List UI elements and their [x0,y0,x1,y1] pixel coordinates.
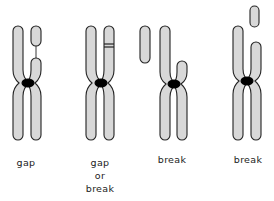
chromosome-break-1 [140,26,187,140]
label-break-1: break [152,153,192,166]
chromatid-right-short [245,42,261,140]
chromosome-break-2 [233,6,261,140]
centromere [95,79,107,87]
chromatid-right-short [173,61,187,140]
centromere [168,80,180,88]
label-line: or [80,169,120,182]
chromatid-right [27,58,41,140]
label-line: gap [8,156,44,169]
label-line: break [80,182,120,195]
label-break-2: break [228,153,268,166]
centromere [22,79,34,87]
label-gap-or-break: gap or break [80,156,120,195]
broken-fragment [250,6,259,27]
centromere [241,77,253,85]
label-line: break [228,153,268,166]
label-gap: gap [8,156,44,169]
chromosome-gap [13,26,41,140]
label-line: gap [80,156,120,169]
broken-fragment [140,26,150,63]
chromosome-gap-or-break [86,26,114,140]
chromosome-diagram [0,0,274,201]
chromatid-right-upper-segment [31,26,41,46]
label-line: break [152,153,192,166]
